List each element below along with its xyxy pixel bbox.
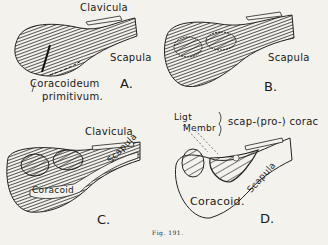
label-a-clavicula: Clavicula bbox=[80, 2, 128, 13]
panel-b-drawing bbox=[164, 12, 294, 87]
panel-letter-b: B. bbox=[264, 79, 277, 94]
label-c-coracoid: Coracoid bbox=[32, 185, 74, 195]
label-d-scap-pro-corac: scap-(pro-) corac bbox=[228, 116, 318, 127]
panel-letter-c: C. bbox=[97, 212, 110, 227]
label-d-coracoid: Coracoid. bbox=[190, 195, 245, 208]
panel-letter-d: D. bbox=[260, 211, 274, 226]
label-a-scapula: Scapula bbox=[110, 52, 152, 63]
label-d-membr: Membr bbox=[183, 123, 216, 133]
panel-letter-a: A. bbox=[120, 76, 133, 91]
label-b-scapula: Scapula bbox=[268, 52, 310, 63]
label-a-coracoideum: Coracoideum bbox=[30, 78, 100, 89]
label-a-primitivum: primitivum. bbox=[42, 91, 103, 102]
figure-caption: Fig. 191. bbox=[152, 229, 184, 236]
label-d-ligt: Ligt bbox=[174, 112, 192, 122]
